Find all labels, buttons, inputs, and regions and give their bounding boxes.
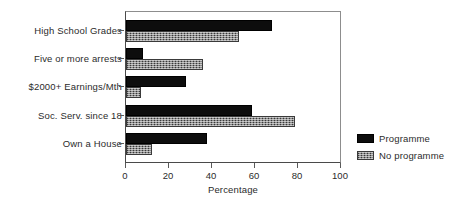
y-tick-mark	[119, 115, 124, 116]
x-tick-mark	[125, 163, 126, 168]
bar-programme	[126, 20, 272, 31]
x-tick-label: 60	[249, 170, 260, 181]
x-tick-mark	[254, 163, 255, 168]
bar-programme	[126, 105, 252, 116]
y-tick-mark	[119, 30, 124, 31]
bar-no-programme	[126, 144, 152, 155]
bar-no-programme	[126, 87, 141, 98]
chart-legend: Programme No programme	[357, 131, 459, 165]
bar-no-programme	[126, 116, 295, 127]
x-tick-mark	[168, 163, 169, 168]
x-tick-label: 0	[122, 170, 127, 181]
bar-programme	[126, 133, 207, 144]
bar-programme	[126, 76, 186, 87]
category-label: Own a House	[4, 138, 122, 149]
legend-swatch-programme	[357, 134, 374, 143]
bar-no-programme	[126, 31, 239, 42]
x-tick-mark	[297, 163, 298, 168]
bar-programme	[126, 48, 143, 59]
y-tick-mark	[119, 86, 124, 87]
category-label: Five or more arrests	[4, 53, 122, 64]
x-tick-label: 100	[332, 170, 348, 181]
legend-item-programme: Programme	[357, 131, 459, 146]
category-label: $2000+ Earnings/Mth	[4, 81, 122, 92]
x-tick-label: 40	[206, 170, 217, 181]
x-tick-label: 80	[292, 170, 303, 181]
category-axis: High School Grades Five or more arrests …	[0, 0, 122, 203]
x-axis-title: Percentage	[125, 184, 341, 195]
bar-no-programme	[126, 59, 203, 70]
x-tick-mark	[211, 163, 212, 168]
plot-area	[125, 11, 341, 163]
legend-swatch-no-programme	[357, 151, 374, 160]
category-label: Soc. Serv. since 18	[4, 110, 122, 121]
bar-chart-figure: High School Grades Five or more arrests …	[0, 0, 461, 203]
legend-label: Programme	[379, 133, 430, 144]
x-tick-mark	[340, 163, 341, 168]
y-tick-mark	[119, 58, 124, 59]
y-tick-mark	[119, 143, 124, 144]
x-tick-label: 20	[163, 170, 174, 181]
category-label: High School Grades	[4, 25, 122, 36]
legend-item-no-programme: No programme	[357, 148, 459, 163]
legend-label: No programme	[379, 150, 444, 161]
